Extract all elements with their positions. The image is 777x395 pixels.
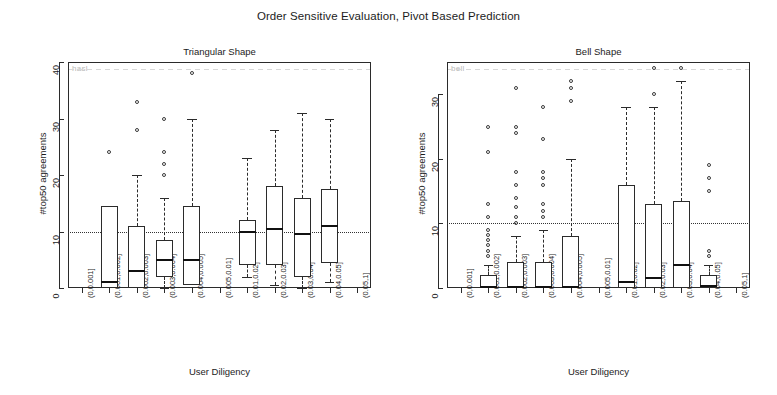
- box-iqr: [673, 201, 690, 288]
- x-axis-tick: [516, 288, 517, 293]
- x-axis-tick-label: (0.005,0.01]: [224, 258, 233, 298]
- box-outlier: [707, 254, 711, 258]
- box-whisker-upper: [654, 107, 655, 204]
- y-axis-label-left: #top50 agreements: [37, 114, 48, 234]
- box-whisker-lower: [247, 265, 248, 276]
- y-axis-tick-label: 20: [430, 158, 440, 176]
- box-cap-upper: [676, 81, 686, 82]
- box-median: [700, 285, 717, 287]
- box-outlier: [514, 183, 518, 187]
- box-cap-upper: [325, 119, 335, 120]
- box-outlier: [514, 131, 518, 135]
- box-outlier: [707, 189, 711, 193]
- box-outlier: [514, 215, 518, 219]
- box-whisker-upper: [516, 236, 517, 262]
- box-iqr: [239, 220, 256, 265]
- box-median: [480, 286, 497, 288]
- box-cap-upper: [649, 107, 659, 108]
- x-axis-tick-label: (0.05,1]: [361, 273, 370, 298]
- box-whisker-lower: [302, 277, 303, 288]
- box-outlier: [514, 196, 518, 200]
- box-median: [266, 228, 283, 230]
- box-cap-upper: [484, 265, 494, 266]
- x-axis-tick-label: (0,0.001]: [465, 268, 474, 298]
- box-median: [239, 231, 256, 233]
- box-whisker-upper: [247, 158, 248, 220]
- scan-artifact-line: [69, 69, 370, 70]
- box-median: [673, 264, 690, 266]
- box-outlier: [569, 86, 573, 90]
- box-whisker-upper: [192, 119, 193, 207]
- box-cap-lower: [160, 288, 170, 289]
- box-median: [507, 286, 524, 288]
- x-axis-tick: [82, 288, 83, 293]
- box-cap-upper: [566, 159, 576, 160]
- box-iqr: [101, 206, 118, 288]
- y-axis-tick-label: 0: [430, 287, 440, 305]
- scan-artifact-line: [448, 69, 749, 70]
- x-axis-tick: [626, 288, 627, 293]
- y-axis-tick-label: 40: [51, 61, 61, 79]
- box-cap-upper: [132, 175, 142, 176]
- box-iqr: [294, 198, 311, 277]
- box-median: [128, 270, 145, 272]
- box-cap-upper: [704, 265, 714, 266]
- box-whisker-lower: [330, 263, 331, 283]
- box-outlier: [514, 170, 518, 174]
- y-axis-tick-label: 30: [430, 93, 440, 111]
- y-axis-label-right: #top50 agreements: [416, 114, 427, 234]
- box-whisker-upper: [543, 230, 544, 262]
- x-axis-tick: [247, 288, 248, 293]
- box-outlier: [135, 100, 139, 104]
- box-outlier: [569, 99, 573, 103]
- box-median: [645, 277, 662, 279]
- box-median: [101, 281, 118, 283]
- x-axis-tick-label: (0,0.001]: [86, 268, 95, 298]
- box-cap-upper: [187, 119, 197, 120]
- x-axis-tick: [543, 288, 544, 293]
- box-whisker-lower: [164, 277, 165, 288]
- box-iqr: [535, 262, 552, 288]
- box-cap-upper: [242, 158, 252, 159]
- box-median: [321, 225, 338, 227]
- x-axis-tick: [330, 288, 331, 293]
- box-cap-lower: [242, 277, 252, 278]
- panel-title-triangular: Triangular Shape: [68, 46, 371, 57]
- box-whisker-upper: [275, 130, 276, 187]
- box-whisker-lower: [275, 265, 276, 285]
- box-cap-upper: [511, 236, 521, 237]
- box-outlier: [707, 249, 711, 253]
- box-cap-upper: [539, 230, 549, 231]
- box-iqr: [562, 236, 579, 288]
- box-cap-lower: [325, 282, 335, 283]
- x-axis-tick: [736, 288, 737, 293]
- reference-line: [447, 223, 750, 224]
- box-median: [294, 233, 311, 235]
- x-axis-tick-label: (0.005,0.01]: [603, 258, 612, 298]
- x-axis-tick: [461, 288, 462, 293]
- box-outlier: [514, 125, 518, 129]
- box-outlier: [707, 176, 711, 180]
- box-whisker-upper: [302, 113, 303, 198]
- x-axis-tick-label: (0.05,1]: [740, 273, 749, 298]
- box-outlier: [486, 125, 490, 129]
- box-median: [183, 259, 200, 261]
- box-iqr: [266, 186, 283, 265]
- x-axis-tick: [571, 288, 572, 293]
- x-axis-tick: [599, 288, 600, 293]
- box-median: [156, 259, 173, 261]
- box-whisker-upper: [626, 107, 627, 184]
- box-cap-upper: [621, 107, 631, 108]
- x-axis-tick: [109, 288, 110, 293]
- box-iqr: [507, 262, 524, 288]
- panel-title-bell: Bell Shape: [447, 46, 750, 57]
- box-outlier: [514, 86, 518, 90]
- box-whisker-upper: [330, 119, 331, 190]
- y-axis-tick-label: 10: [430, 222, 440, 240]
- x-axis-tick: [275, 288, 276, 293]
- y-axis-tick-label: 0: [51, 287, 61, 305]
- y-axis-tick-label: 20: [51, 174, 61, 192]
- box-iqr: [183, 206, 200, 285]
- x-axis-tick: [220, 288, 221, 293]
- box-whisker-upper: [681, 81, 682, 200]
